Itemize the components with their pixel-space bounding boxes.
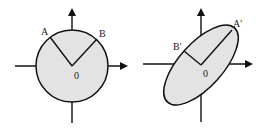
label-b: B: [99, 28, 106, 39]
label-b-prime: B': [173, 41, 182, 52]
circle-figure: A B 0: [15, 10, 126, 123]
diagram: A B 0 A' B' 0: [0, 0, 269, 131]
label-origin: 0: [203, 68, 208, 79]
label-a: A: [41, 26, 49, 37]
ellipse-figure: A' B' 0: [143, 10, 251, 122]
label-origin: 0: [74, 70, 79, 81]
label-a-prime: A': [233, 18, 242, 29]
